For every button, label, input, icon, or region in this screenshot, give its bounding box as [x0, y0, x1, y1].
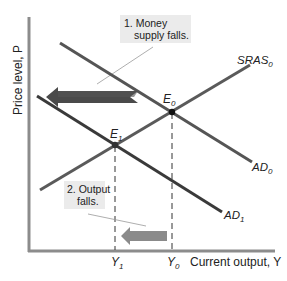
annotation-1-line2: supply falls.: [134, 29, 189, 41]
sras0-curve: [40, 65, 250, 190]
sras0-label: SRAS0: [237, 54, 273, 69]
annotation-2-line1: 2. Output: [67, 183, 110, 195]
ad-as-diagram: Price level, P 1. Money supply falls. E0…: [0, 0, 287, 281]
annotation-1-line1: 1. Money: [124, 17, 168, 29]
annotation-2-line2: falls.: [77, 195, 99, 207]
e1-label: E1: [110, 127, 122, 143]
annotation-1-pointer: [97, 47, 153, 84]
y-axis-label: Price level, P: [11, 45, 25, 115]
x-axis-label: Current output, Y: [190, 255, 281, 269]
annotation-2-pointer: [88, 214, 146, 226]
ad0-label: AD0: [251, 161, 273, 176]
y0-tick-label: Y0: [167, 255, 180, 271]
ad-shift-arrow-highlight: [58, 91, 138, 97]
output-fall-arrow-icon: [121, 227, 167, 245]
e0-label: E0: [163, 92, 176, 108]
ad1-label: AD1: [223, 209, 244, 224]
y1-tick-label: Y1: [111, 255, 123, 271]
e0-point: [169, 109, 175, 115]
